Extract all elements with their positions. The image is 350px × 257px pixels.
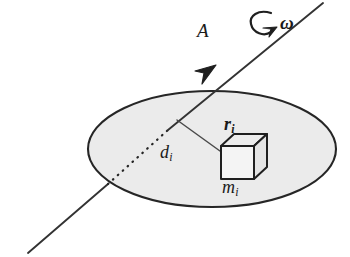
axis-label: A <box>197 21 209 40</box>
figure-canvas <box>0 0 350 257</box>
rotation-axis-lower <box>28 184 108 253</box>
mass-label: mi <box>222 178 239 199</box>
rotation-direction-arc <box>251 12 271 34</box>
mass-symbol: m <box>222 177 235 197</box>
rotation-arrowhead <box>263 27 277 37</box>
axis-arrowhead <box>195 65 216 84</box>
distance-subscript: i <box>169 150 172 164</box>
distance-label: di <box>160 143 173 164</box>
mass-subscript: i <box>235 185 238 199</box>
distance-symbol: d <box>160 142 169 162</box>
position-vector-label: ri <box>224 115 235 136</box>
position-vector-symbol: r <box>224 114 231 134</box>
physics-figure: A ω di ri mi <box>0 0 350 257</box>
position-vector-subscript: i <box>231 122 234 136</box>
rigid-body-disk <box>88 91 336 207</box>
angular-velocity-label: ω <box>280 13 294 32</box>
mass-cube-front-face <box>221 146 254 179</box>
